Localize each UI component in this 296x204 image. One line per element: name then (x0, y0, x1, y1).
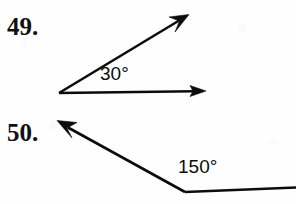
arrowhead-upper-49 (169, 15, 189, 33)
angle-measure-label-150: 150° (178, 157, 217, 176)
problem-number-50: 50. (7, 120, 38, 145)
ray-upper-left-50 (68, 128, 185, 193)
ray-horizontal-49 (59, 91, 194, 93)
angle-figure-49 (59, 15, 206, 97)
angle-figure-50 (57, 121, 296, 193)
arrowhead-upper-left-50 (57, 121, 77, 139)
worksheet-page: 49. 30° 50. 150° (0, 0, 296, 204)
problem-number-49: 49. (7, 14, 38, 39)
angle-diagrams (0, 0, 296, 204)
ray-horizontal-50 (185, 188, 296, 193)
angle-measure-label-30: 30° (100, 64, 129, 83)
